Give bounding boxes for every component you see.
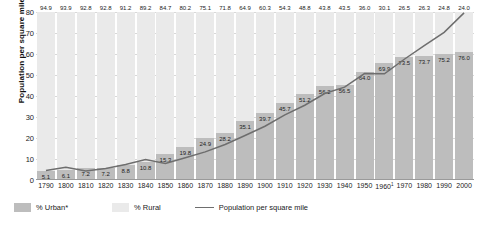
bar-label-rural: 24.0 xyxy=(451,5,477,11)
x-axis-line xyxy=(36,179,474,180)
chart-legend: % Urban* % Rural Population per square m… xyxy=(14,203,308,212)
rural-swatch-icon xyxy=(112,203,129,212)
y-axis-ticks: 01020304050607080 xyxy=(0,0,34,225)
legend-item-rural: % Rural xyxy=(112,203,161,212)
y-tick-30: 30 xyxy=(8,113,34,122)
y-tick-10: 10 xyxy=(8,155,34,164)
legend-item-urban: % Urban* xyxy=(14,203,68,212)
plot-area: 5.194.96.193.97.292.87.292.88.891.210.88… xyxy=(36,12,474,180)
density-line-svg xyxy=(36,12,474,180)
chart-root: Population per square mile 0102030405060… xyxy=(0,0,480,225)
x-tick-2000: 2000 xyxy=(449,182,479,189)
x-axis-ticks: 1790180018101820183018401850186018701880… xyxy=(36,182,474,194)
y-tick-40: 40 xyxy=(8,92,34,101)
y-tick-80: 80 xyxy=(8,8,34,17)
y-tick-70: 70 xyxy=(8,29,34,38)
line-swatch-icon xyxy=(195,207,214,208)
density-line xyxy=(46,13,464,171)
y-tick-50: 50 xyxy=(8,71,34,80)
urban-swatch-icon xyxy=(14,203,31,212)
y-tick-60: 60 xyxy=(8,50,34,59)
legend-label-rural: % Rural xyxy=(134,203,161,212)
legend-label-urban: % Urban* xyxy=(36,203,68,212)
legend-label-line: Population per square mile xyxy=(219,203,308,212)
y-tick-20: 20 xyxy=(8,134,34,143)
legend-item-line: Population per square mile xyxy=(195,203,308,212)
